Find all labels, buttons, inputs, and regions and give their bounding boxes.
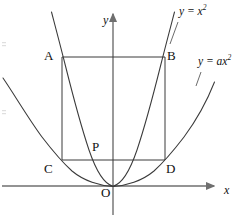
leader-line-ax-squared: [196, 72, 201, 86]
point-label-D: D: [166, 162, 175, 175]
curve-label-x-squared-text: y = x: [179, 5, 203, 17]
point-label-A: A: [44, 49, 53, 62]
point-label-P: P: [92, 140, 99, 153]
point-label-O: O: [101, 186, 110, 199]
curve-label-ax-squared-exponent: 2: [227, 53, 231, 62]
curve-y-equals-a-x-squared: [3, 78, 215, 186]
y-axis-label: y: [103, 14, 108, 26]
curve-label-x-squared: y = x2: [179, 6, 206, 18]
curve-label-ax-squared-text: y = ax: [198, 55, 227, 67]
x-axis-label: x: [224, 184, 229, 196]
figure-canvas: [0, 0, 243, 216]
point-label-B: B: [167, 49, 176, 62]
geometry-figure: A B C D P O y x y = x2 y = ax2: [0, 0, 243, 216]
curve-label-x-squared-exponent: 2: [203, 3, 207, 12]
curve-label-ax-squared: y = ax2: [198, 56, 231, 68]
point-label-C: C: [44, 162, 53, 175]
